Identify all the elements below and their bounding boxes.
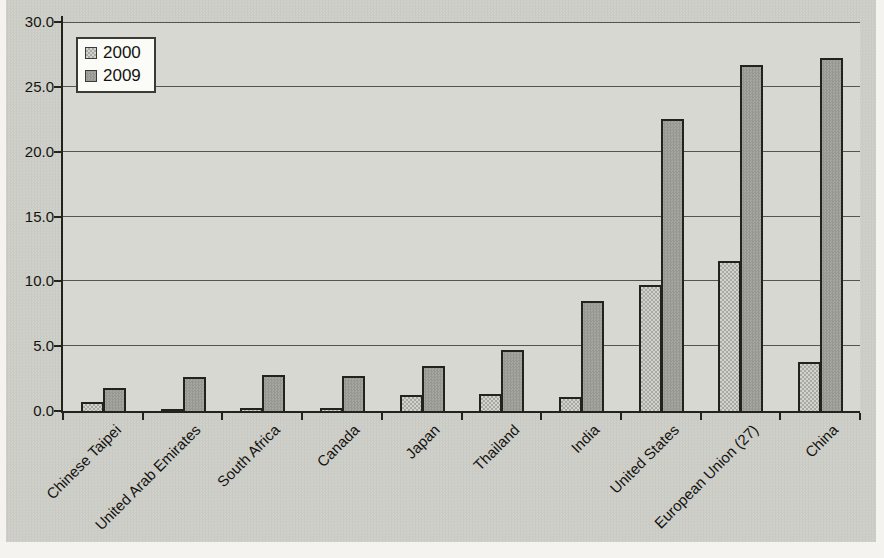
bar-2000-european-union-27 — [718, 261, 741, 411]
scanned-page: 20002009 0.05.010.015.020.025.030.0 Chin… — [0, 0, 884, 558]
legend: 20002009 — [76, 37, 156, 93]
bar-2009-china — [820, 58, 843, 411]
x-tick — [859, 413, 861, 420]
bar-2000-japan — [400, 395, 423, 411]
y-axis-label: 15.0 — [0, 208, 54, 226]
bar-2009-japan — [422, 366, 445, 411]
x-tick — [381, 413, 383, 420]
y-tick-5.0 — [54, 345, 61, 347]
x-tick — [700, 413, 702, 420]
legend-item-2000: 2000 — [85, 44, 141, 62]
bar-2009-india — [581, 301, 604, 411]
x-tick — [142, 413, 144, 420]
bar-2009-united-arab-emirates — [183, 377, 206, 411]
gridline-30.0 — [63, 22, 860, 23]
bar-2009-canada — [342, 376, 365, 411]
y-axis-label: 25.0 — [0, 78, 54, 96]
plot-area: 20002009 — [61, 22, 860, 413]
bar-2009-united-states — [661, 119, 684, 411]
y-axis-label: 30.0 — [0, 13, 54, 31]
x-tick — [461, 413, 463, 420]
legend-label: 2009 — [103, 67, 141, 85]
bar-2000-china — [798, 362, 821, 411]
y-axis-label: 20.0 — [0, 143, 54, 161]
legend-swatch-2000 — [85, 47, 97, 59]
bar-2009-chinese-taipei — [103, 388, 126, 411]
x-tick — [540, 413, 542, 420]
bar-2000-canada — [320, 408, 343, 411]
bar-2000-india — [559, 397, 582, 411]
bar-2000-south-africa — [240, 408, 263, 411]
y-axis-label: 5.0 — [0, 337, 54, 355]
bar-2000-chinese-taipei — [81, 402, 104, 411]
y-axis-label: 0.0 — [0, 402, 54, 420]
y-tick-25.0 — [54, 86, 61, 88]
bar-2009-european-union-27 — [740, 65, 763, 411]
bar-2000-united-states — [639, 285, 662, 411]
y-tick-15.0 — [54, 216, 61, 218]
bar-2000-united-arab-emirates — [161, 409, 184, 411]
y-tick-10.0 — [54, 280, 61, 282]
y-tick-20.0 — [54, 151, 61, 153]
y-tick-0.0 — [54, 410, 61, 412]
x-tick — [620, 413, 622, 420]
legend-swatch-2009 — [85, 70, 97, 82]
bar-2009-thailand — [501, 350, 524, 411]
bar-2000-thailand — [479, 394, 502, 411]
x-tick — [779, 413, 781, 420]
x-tick — [301, 413, 303, 420]
y-tick-30.0 — [54, 21, 61, 23]
legend-item-2009: 2009 — [85, 67, 141, 85]
x-tick — [62, 413, 64, 420]
bar-2009-south-africa — [262, 375, 285, 411]
x-tick — [221, 413, 223, 420]
y-axis-label: 10.0 — [0, 272, 54, 290]
legend-label: 2000 — [103, 44, 141, 62]
